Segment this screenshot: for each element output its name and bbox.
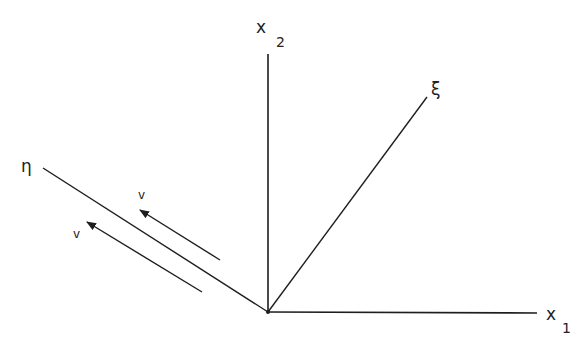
x1-subscript: 1 xyxy=(562,320,571,336)
xi-axis xyxy=(268,97,427,312)
x1-axis xyxy=(268,312,537,313)
x1-label: x xyxy=(546,304,556,324)
origin-point xyxy=(266,310,270,314)
axes-diagram: x 2 x 1 ξ η v v xyxy=(0,0,588,347)
x2-subscript: 2 xyxy=(276,34,285,50)
x2-label: x xyxy=(256,17,266,37)
eta-label: η xyxy=(21,156,32,176)
velocity-label-upper: v xyxy=(138,188,145,202)
diagram-canvas: x 2 x 1 ξ η v v xyxy=(0,0,588,347)
xi-label: ξ xyxy=(431,79,440,99)
velocity-arrow-upper xyxy=(140,210,220,260)
velocity-label-lower: v xyxy=(73,227,80,241)
